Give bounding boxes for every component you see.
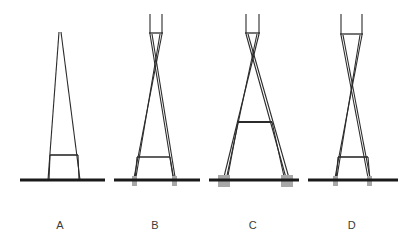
figure-d-extension [340, 14, 363, 35]
figure-b-rung-rails [135, 157, 174, 181]
ladder-diagram-panel: A B C D [0, 0, 415, 242]
figure-label-d: D [332, 218, 372, 232]
figure-b [114, 14, 200, 186]
figure-label-row: A B C D [0, 218, 415, 242]
figure-label-c: C [233, 218, 273, 232]
figure-b-rails [133, 34, 176, 183]
figure-a-rails [48, 32, 80, 180]
figure-a-rung-rails [49, 155, 79, 180]
figure-b-extension [149, 14, 163, 34]
figure-c-extension [245, 14, 260, 34]
figure-d-rails [334, 35, 371, 183]
figure-a [20, 32, 105, 180]
figure-label-a: A [40, 218, 80, 232]
figure-c [209, 14, 299, 187]
figure-d [308, 14, 398, 186]
ladder-diagram-svg [0, 0, 415, 242]
figure-label-b: B [135, 218, 175, 232]
